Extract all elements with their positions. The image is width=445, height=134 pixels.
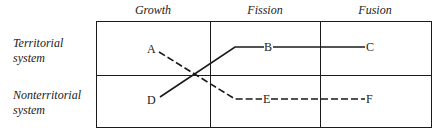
node-c: C	[366, 40, 374, 54]
node-e: E	[263, 92, 270, 106]
node-b: B	[264, 40, 272, 54]
node-a: A	[147, 42, 156, 56]
grid	[96, 21, 432, 128]
diagram-canvas: A B C D E F	[0, 0, 445, 134]
node-d: D	[147, 93, 156, 107]
node-f: F	[366, 92, 373, 106]
solid-path-d-b-c	[160, 47, 365, 97]
